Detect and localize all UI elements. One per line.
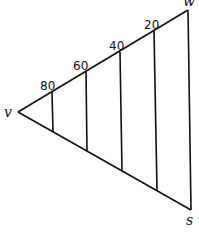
edge-w-s: [188, 10, 191, 210]
division-label-80: 80: [40, 79, 55, 93]
vertex-label-s: s: [186, 212, 193, 228]
division-line-80: [52, 92, 53, 132]
division-line-40: [120, 52, 122, 172]
division-label-40: 40: [109, 39, 124, 53]
edge-v-s: [18, 112, 191, 210]
vertex-label-w: w: [183, 0, 195, 9]
division-label-60: 60: [73, 59, 88, 73]
triangle-diagram: v w s 80 60 40 20: [0, 0, 199, 233]
division-label-20: 20: [144, 18, 159, 32]
division-line-60: [86, 72, 87, 152]
division-line-20: [154, 31, 157, 191]
edge-v-w: [18, 10, 188, 112]
vertex-label-v: v: [4, 104, 12, 120]
